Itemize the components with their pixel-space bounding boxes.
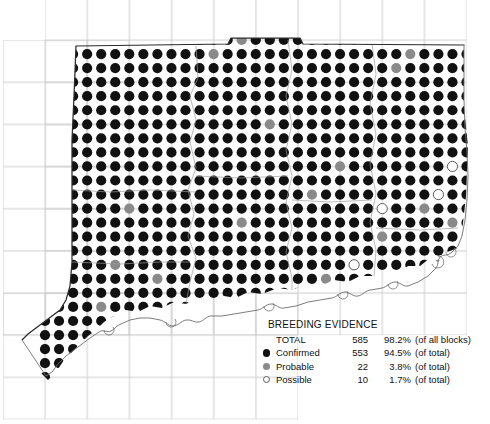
atlas-block-confirmed — [279, 260, 289, 270]
atlas-block-confirmed — [96, 63, 106, 73]
atlas-block-confirmed — [110, 161, 120, 171]
atlas-block-confirmed — [279, 133, 289, 143]
atlas-block-confirmed — [265, 133, 275, 143]
probable-dot-icon — [262, 360, 276, 373]
atlas-block-confirmed — [349, 175, 359, 185]
atlas-block-confirmed — [166, 260, 176, 270]
atlas-block-confirmed — [96, 49, 106, 59]
legend-count-probable: 22 — [338, 360, 375, 373]
atlas-block-confirmed — [419, 218, 429, 228]
legend-row-total: TOTAL 585 98.2% (of all blocks) — [262, 333, 488, 346]
atlas-block-confirmed — [419, 105, 429, 115]
atlas-block-confirmed — [180, 161, 190, 171]
atlas-block-confirmed — [405, 232, 415, 242]
atlas-block-confirmed — [194, 105, 204, 115]
atlas-block-confirmed — [391, 246, 401, 256]
atlas-block-confirmed — [349, 218, 359, 228]
atlas-block-probable — [335, 161, 345, 171]
atlas-block-confirmed — [152, 77, 162, 87]
atlas-block-confirmed — [110, 274, 120, 284]
atlas-block-confirmed — [209, 147, 219, 157]
atlas-block-confirmed — [377, 119, 387, 129]
atlas-block-confirmed — [447, 147, 457, 157]
atlas-block-confirmed — [447, 105, 457, 115]
atlas-block-confirmed — [363, 133, 373, 143]
atlas-block-confirmed — [335, 105, 345, 115]
atlas-block-confirmed — [279, 77, 289, 87]
atlas-block-confirmed — [307, 77, 317, 87]
atlas-block-confirmed — [152, 260, 162, 270]
atlas-block-confirmed — [307, 260, 317, 270]
atlas-block-confirmed — [180, 49, 190, 59]
atlas-block-confirmed — [405, 175, 415, 185]
atlas-block-confirmed — [166, 49, 176, 59]
atlas-block-confirmed — [335, 147, 345, 157]
atlas-block-confirmed — [433, 91, 443, 101]
legend-note-total: (of all blocks) — [411, 333, 471, 346]
atlas-block-confirmed — [124, 161, 134, 171]
atlas-block-confirmed — [293, 246, 303, 256]
atlas-block-confirmed — [279, 274, 289, 284]
atlas-block-confirmed — [307, 119, 317, 129]
atlas-block-confirmed — [307, 147, 317, 157]
atlas-block-confirmed — [68, 316, 78, 326]
atlas-block-confirmed — [419, 175, 429, 185]
atlas-block-confirmed — [152, 147, 162, 157]
atlas-block-confirmed — [293, 77, 303, 87]
atlas-block-confirmed — [391, 49, 401, 59]
atlas-block-confirmed — [180, 91, 190, 101]
atlas-block-confirmed — [363, 119, 373, 129]
atlas-block-confirmed — [110, 91, 120, 101]
atlas-block-probable — [209, 49, 219, 59]
atlas-block-confirmed — [180, 274, 190, 284]
atlas-block-probable — [419, 204, 429, 214]
atlas-block-confirmed — [321, 133, 331, 143]
atlas-block-confirmed — [237, 232, 247, 242]
atlas-block-confirmed — [194, 175, 204, 185]
atlas-block-confirmed — [405, 161, 415, 171]
atlas-block-confirmed — [377, 63, 387, 73]
legend-count-possible: 10 — [338, 373, 375, 386]
atlas-block-confirmed — [152, 189, 162, 199]
atlas-block-confirmed — [377, 49, 387, 59]
atlas-block-confirmed — [293, 91, 303, 101]
atlas-block-confirmed — [265, 63, 275, 73]
atlas-block-confirmed — [194, 218, 204, 228]
atlas-block-confirmed — [110, 105, 120, 115]
atlas-block-confirmed — [96, 119, 106, 129]
atlas-block-confirmed — [138, 147, 148, 157]
atlas-block-confirmed — [307, 133, 317, 143]
atlas-block-confirmed — [96, 91, 106, 101]
atlas-block-confirmed — [110, 119, 120, 129]
legend: BREEDING EVIDENCE TOTAL 585 98.2% (of al… — [262, 318, 488, 386]
atlas-block-confirmed — [82, 49, 92, 59]
legend-count-total: 585 — [338, 333, 375, 346]
atlas-block-confirmed — [82, 105, 92, 115]
atlas-block-confirmed — [349, 161, 359, 171]
confirmed-dot-icon — [262, 346, 276, 359]
atlas-block-confirmed — [321, 246, 331, 256]
atlas-block-confirmed — [237, 161, 247, 171]
atlas-block-confirmed — [237, 274, 247, 284]
atlas-block-confirmed — [166, 274, 176, 284]
atlas-block-confirmed — [251, 63, 261, 73]
atlas-block-confirmed — [251, 77, 261, 87]
atlas-block-confirmed — [293, 161, 303, 171]
atlas-block-confirmed — [194, 232, 204, 242]
atlas-block-probable — [124, 204, 134, 214]
atlas-block-confirmed — [251, 119, 261, 129]
atlas-block-confirmed — [237, 105, 247, 115]
atlas-block-confirmed — [349, 133, 359, 143]
atlas-block-confirmed — [349, 246, 359, 256]
atlas-block-confirmed — [110, 204, 120, 214]
atlas-block-confirmed — [110, 189, 120, 199]
atlas-block-confirmed — [279, 232, 289, 242]
atlas-block-confirmed — [237, 246, 247, 256]
atlas-block-confirmed — [152, 246, 162, 256]
atlas-block-confirmed — [180, 147, 190, 157]
atlas-block-confirmed — [194, 147, 204, 157]
atlas-block-confirmed — [391, 133, 401, 143]
atlas-block-confirmed — [433, 63, 443, 73]
atlas-block-confirmed — [194, 91, 204, 101]
atlas-block-confirmed — [194, 133, 204, 143]
